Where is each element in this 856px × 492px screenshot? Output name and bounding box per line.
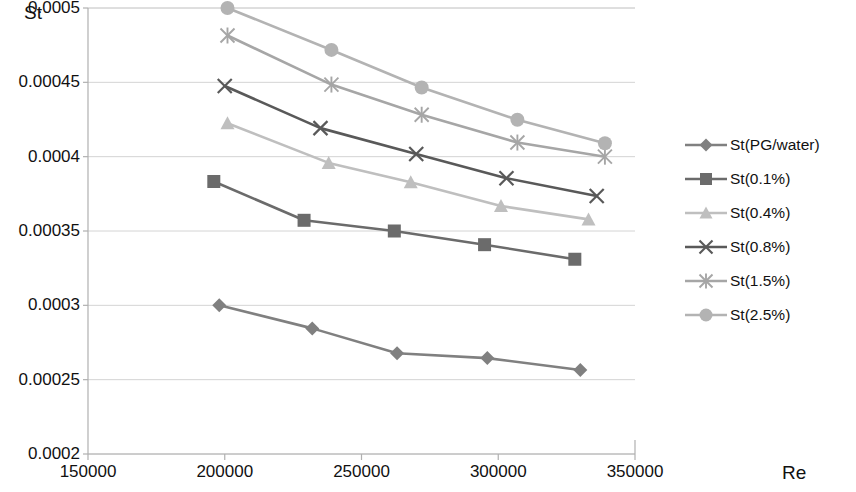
data-point-triangle — [220, 116, 234, 129]
legend-marker-circle-icon — [684, 306, 728, 324]
data-point-asterisk — [324, 77, 338, 93]
data-point-triangle — [322, 156, 336, 169]
series-line — [227, 8, 604, 143]
data-point-circle — [324, 43, 338, 57]
legend-label: St(0.4%) — [730, 204, 790, 222]
legend-item-asterisk[interactable]: St(1.5%) — [684, 264, 856, 298]
data-point-diamond — [390, 346, 404, 360]
legend-marker-x-icon — [684, 238, 728, 256]
legend-item-diamond[interactable]: St(PG/water) — [684, 128, 856, 162]
data-point-circle — [700, 309, 713, 322]
legend-item-triangle[interactable]: St(0.4%) — [684, 196, 856, 230]
data-point-square — [700, 173, 712, 185]
data-point-diamond — [480, 351, 494, 365]
legend-item-circle[interactable]: St(2.5%) — [684, 298, 856, 332]
series-line — [227, 123, 588, 219]
data-point-x — [218, 79, 232, 93]
legend-label: St(0.8%) — [730, 238, 790, 256]
series-5 — [220, 1, 611, 150]
legend-label: St(1.5%) — [730, 272, 790, 290]
series-line — [214, 181, 575, 259]
data-point-diamond — [212, 298, 226, 312]
legend-marker-triangle-icon — [684, 204, 728, 222]
legend-item-x[interactable]: St(0.8%) — [684, 230, 856, 264]
series-0 — [212, 298, 587, 377]
data-point-diamond — [700, 139, 713, 152]
data-point-square — [207, 175, 220, 188]
data-point-square — [478, 238, 491, 251]
data-point-diamond — [573, 363, 587, 377]
data-point-asterisk — [415, 107, 429, 123]
data-point-square — [298, 214, 311, 227]
data-point-square — [568, 253, 581, 266]
data-point-circle — [598, 136, 612, 150]
series-1 — [207, 175, 581, 266]
series-line — [227, 36, 604, 157]
series-line — [219, 305, 580, 370]
legend-marker-square-icon — [684, 170, 728, 188]
data-point-circle — [510, 113, 524, 127]
data-point-diamond — [305, 321, 319, 335]
chart-container: St Re 0.00020.000250.00030.000350.00040.… — [0, 0, 856, 492]
data-point-circle — [220, 1, 234, 15]
legend-label: St(0.1%) — [730, 170, 790, 188]
legend-marker-asterisk-icon — [684, 272, 728, 290]
data-point-asterisk — [220, 28, 234, 44]
data-point-circle — [415, 81, 429, 95]
chart-legend: St(PG/water)St(0.1%)St(0.4%)St(0.8%)St(1… — [684, 128, 856, 332]
legend-item-square[interactable]: St(0.1%) — [684, 162, 856, 196]
legend-marker-diamond-icon — [684, 136, 728, 154]
legend-label: St(2.5%) — [730, 306, 790, 324]
data-point-square — [388, 225, 401, 238]
legend-label: St(PG/water) — [730, 136, 820, 154]
